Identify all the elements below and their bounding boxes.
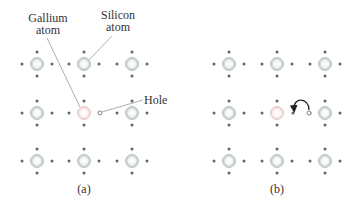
hole-label: Hole <box>144 94 167 106</box>
gallium-atom-label: Gallium atom <box>20 12 76 36</box>
valence-electron <box>36 51 39 54</box>
gallium-atom <box>78 107 91 120</box>
silicon-label-line2: atom <box>92 21 144 33</box>
silicon-atom <box>319 155 332 168</box>
valence-electron <box>292 112 295 115</box>
silicon-atom <box>319 107 332 120</box>
valence-electron <box>324 148 327 151</box>
silicon-atom-label: Silicon atom <box>92 9 144 33</box>
valence-electron <box>309 63 312 66</box>
valence-electron <box>276 148 279 151</box>
silicon-atom <box>31 107 44 120</box>
valence-electron <box>83 51 86 54</box>
valence-electron <box>131 172 134 175</box>
valence-electron <box>324 100 327 103</box>
gallium-label-line2: atom <box>20 24 76 36</box>
valence-electron <box>51 63 54 66</box>
silicon-leader-line <box>89 36 112 60</box>
valence-electron <box>228 75 231 78</box>
valence-electron <box>131 75 134 78</box>
valence-electron <box>98 160 101 163</box>
valence-electron <box>261 112 264 115</box>
valence-electron <box>68 160 71 163</box>
valence-electron <box>276 124 279 127</box>
silicon-atom <box>78 155 91 168</box>
valence-electron <box>324 51 327 54</box>
atom-lattice <box>21 51 342 175</box>
valence-electron <box>36 172 39 175</box>
valence-electron <box>228 172 231 175</box>
silicon-atom <box>126 58 139 71</box>
valence-electron <box>83 124 86 127</box>
silicon-atom <box>223 58 236 71</box>
valence-electron <box>213 63 216 66</box>
valence-electron <box>309 160 312 163</box>
valence-electron <box>36 124 39 127</box>
valence-electron <box>228 100 231 103</box>
leader-lines <box>47 36 143 112</box>
valence-electron <box>146 160 149 163</box>
valence-electron <box>68 63 71 66</box>
silicon-atom <box>31 58 44 71</box>
valence-electron <box>83 172 86 175</box>
valence-electron <box>36 75 39 78</box>
silicon-atom <box>31 155 44 168</box>
valence-electron <box>131 148 134 151</box>
valence-electron <box>131 100 134 103</box>
valence-electron <box>324 172 327 175</box>
valence-electron <box>324 124 327 127</box>
valence-electron <box>228 51 231 54</box>
valence-electron <box>131 51 134 54</box>
valence-electron <box>51 112 54 115</box>
silicon-atom <box>126 155 139 168</box>
valence-electron <box>116 112 119 115</box>
valence-electron <box>21 160 24 163</box>
valence-electron <box>21 112 24 115</box>
valence-electron <box>228 124 231 127</box>
valence-electron <box>261 63 264 66</box>
silicon-atom <box>78 58 91 71</box>
panel-a-label: (a) <box>70 183 98 195</box>
valence-electron <box>68 112 71 115</box>
valence-electron <box>276 172 279 175</box>
valence-electron <box>276 100 279 103</box>
valence-electron <box>339 160 342 163</box>
valence-electron <box>116 63 119 66</box>
valence-electron <box>339 112 342 115</box>
valence-electron <box>228 148 231 151</box>
valence-electron <box>243 112 246 115</box>
valence-electron <box>213 112 216 115</box>
silicon-atom <box>223 107 236 120</box>
silicon-atom <box>271 155 284 168</box>
valence-electron <box>213 160 216 163</box>
gallium-leader-line <box>47 38 80 107</box>
silicon-atom <box>223 155 236 168</box>
valence-electron <box>51 160 54 163</box>
valence-electron <box>243 63 246 66</box>
valence-electron <box>324 75 327 78</box>
silicon-atom <box>271 58 284 71</box>
valence-electron <box>276 51 279 54</box>
valence-electron <box>146 63 149 66</box>
valence-electron <box>261 160 264 163</box>
gallium-atom <box>271 107 284 120</box>
valence-electron <box>83 75 86 78</box>
valence-electron <box>291 160 294 163</box>
valence-electron <box>36 100 39 103</box>
panel-b-label: (b) <box>263 183 291 195</box>
valence-electron <box>339 63 342 66</box>
valence-electron <box>21 63 24 66</box>
valence-electron <box>83 100 86 103</box>
hole-marker <box>307 111 311 115</box>
valence-electron <box>146 112 149 115</box>
valence-electron <box>83 148 86 151</box>
silicon-atom <box>126 107 139 120</box>
valence-electron <box>98 63 101 66</box>
hole-marker <box>98 111 102 115</box>
valence-electron <box>243 160 246 163</box>
valence-electron <box>131 124 134 127</box>
valence-electron <box>291 63 294 66</box>
valence-electron <box>36 148 39 151</box>
valence-electron <box>116 160 119 163</box>
valence-electron <box>276 75 279 78</box>
